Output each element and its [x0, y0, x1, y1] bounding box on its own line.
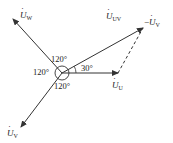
angle-arc-30 [74, 66, 76, 73]
angle-label-30: 30° [81, 64, 93, 73]
label-uv-phasor: UV [7, 129, 18, 139]
phasor-w-arrow [13, 19, 62, 73]
label-uuv: UUV [106, 12, 121, 22]
angle-label-bottom: 120° [54, 82, 70, 91]
label-uw: UW [20, 11, 32, 21]
label-neg-uv: −UV [144, 18, 160, 28]
angle-label-top: 120° [51, 55, 67, 64]
label-uu: UU [112, 81, 123, 91]
angle-label-left: 120° [33, 68, 49, 77]
